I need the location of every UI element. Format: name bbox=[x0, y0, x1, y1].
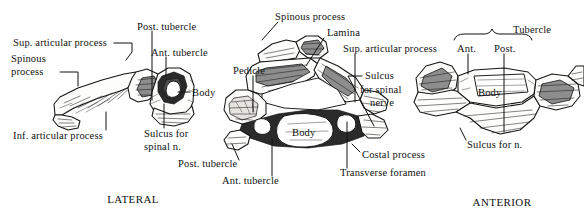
leader-lamina bbox=[306, 38, 324, 66]
vertebra-figure: Sup. articular process Spinous process I… bbox=[0, 0, 584, 213]
superior-label-body: Body bbox=[292, 127, 315, 139]
superior-label-lamina: Lamina bbox=[327, 27, 360, 39]
anterior-label-sulcus-for-n: Sulcus for n. bbox=[467, 139, 522, 151]
anterior-label-tubercle-post: Post. bbox=[494, 43, 515, 55]
superior-view-title: SUPERIOR VIEW bbox=[250, 188, 360, 213]
leader-costal-process bbox=[352, 144, 360, 152]
superior-label-spinous-process: Spinous process bbox=[275, 11, 345, 23]
anterior-label-body: Body bbox=[478, 87, 501, 99]
anterior-label-tubercle-ant: Ant. bbox=[457, 43, 476, 55]
leader-sulcus-for-n bbox=[460, 128, 466, 140]
anterior-view-title-line1: ANTERIOR bbox=[455, 196, 549, 209]
superior-label-pedicle: Pedicle bbox=[233, 65, 265, 77]
anterior-label-tubercle: Tubercle bbox=[513, 24, 551, 36]
superior-label-post-tubercle: Post. tubercle bbox=[178, 158, 237, 170]
leader-spinous-process bbox=[262, 22, 278, 40]
superior-label-ant-tubercle: Ant. tubercle bbox=[222, 175, 279, 187]
anterior-view-title: ANTERIOR VIEW bbox=[455, 170, 549, 213]
